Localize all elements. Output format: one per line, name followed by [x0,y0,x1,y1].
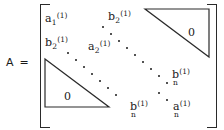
entry-base: b [108,10,115,23]
entry-superscript: (1) [179,67,190,76]
matrix-entry-b2-top: b2(1) [108,10,131,24]
matrix-symbol-A: A [6,56,15,69]
matrix-body: 0 0 [40,4,216,126]
entry-base: b [45,36,52,49]
equals-sign: = [20,56,30,69]
matrix-entry-a1: a1(1) [45,12,67,26]
entry-base: a [45,12,52,25]
equation-left-hand-side: A= [6,56,30,69]
matrix-entry-b2-left: b2(1) [45,36,68,50]
entry-superscript: (1) [180,99,191,108]
entry-subscript: n [173,79,190,87]
matrix-entry-an-bottom: a(1) n [173,100,190,119]
entry-superscript: (1) [120,9,131,18]
entry-base: a [88,40,95,53]
entry-subscript: n [131,111,148,119]
matrix-entry-a2: a2(1) [88,40,110,54]
entry-superscript: (1) [137,99,148,108]
entry-superscript: (1) [100,39,111,48]
matrix-entry-bn-right: b(1) n [172,68,190,87]
matrix-figure: A= 0 0 [0,0,224,130]
entry-superscript: (1) [57,35,68,44]
matrix-entry-bn-bottom: b(1) n [130,100,148,119]
entry-superscript: (1) [57,11,68,20]
entry-subscript: 2 [95,46,100,55]
entry-subscript: 1 [52,18,57,27]
entry-subscript: n [174,111,190,119]
